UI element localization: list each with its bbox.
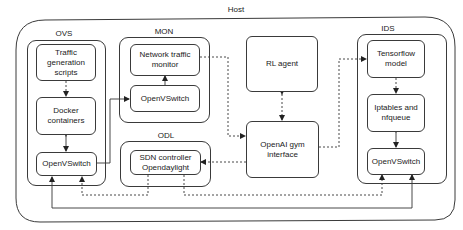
network-traffic-monitor-node: Network traffic monitor <box>130 44 200 76</box>
mon-openvswitch-node: OpenVSwitch <box>130 85 200 112</box>
iptables-nfqueue-node: Iptables and nfqueue <box>367 94 425 132</box>
host-label: Host <box>228 5 244 14</box>
docker-containers-node: Docker containers <box>36 97 96 135</box>
rl-agent-node: RL agent <box>246 36 318 92</box>
mon-group-label: MON <box>155 27 174 36</box>
ids-group-label: IDS <box>381 24 394 33</box>
openai-gym-interface-node: OpenAI gym interface <box>246 121 319 178</box>
sdn-controller-node: SDN controller Opendaylight <box>130 150 201 175</box>
tensorflow-model-node: Tensorflow model <box>367 40 425 78</box>
odl-group-label: ODL <box>158 131 174 140</box>
traffic-generation-scripts-node: Traffic generation scripts <box>36 44 96 81</box>
ids-openvswitch-node: OpenVSwitch <box>367 148 425 175</box>
ovs-group-label: OVS <box>56 29 73 38</box>
ovs-openvswitch-node: OpenVSwitch <box>36 152 97 176</box>
